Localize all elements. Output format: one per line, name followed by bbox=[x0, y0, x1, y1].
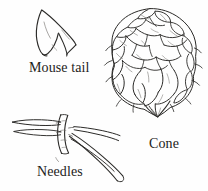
mouse-tail-drawing bbox=[36, 10, 76, 56]
cone-drawing bbox=[105, 9, 203, 117]
figure-label-mouse-tail: Mouse tail bbox=[29, 61, 90, 75]
illustration-plate: Mouse tail Cone Needles bbox=[0, 0, 208, 191]
figure-label-needles: Needles bbox=[37, 165, 83, 179]
plate-artwork bbox=[0, 0, 208, 191]
figure-label-cone: Cone bbox=[149, 137, 179, 151]
